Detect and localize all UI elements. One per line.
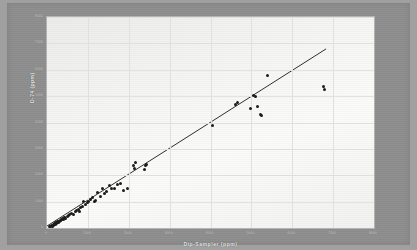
gridline-vertical [88,17,89,228]
x-tick-label: 3000 [165,231,173,235]
y-axis-title: D-74 (ppm) [29,72,35,103]
data-point [113,187,116,190]
y-tick-label: 2000 [18,172,43,176]
gridline-vertical [292,17,293,228]
y-tick-label: 3000 [18,146,43,150]
data-point [101,187,104,190]
y-tick-label: 8000 [18,14,43,18]
x-tick-label: 7000 [328,231,336,235]
gridline-vertical [374,17,375,228]
data-point [260,114,263,117]
x-tick-label: 4000 [205,231,213,235]
scan-page: 010002000300040005000600070008000 010002… [0,0,417,250]
y-tick-label: 1000 [18,199,43,203]
data-point [82,200,85,203]
data-point [254,95,257,98]
x-axis-title: Dip-Sampler (ppm) [46,241,375,247]
x-tick-label: 2000 [124,231,132,235]
x-tick-label: 5000 [246,231,254,235]
x-tick-label: 8000 [369,231,377,235]
figure-panel: 010002000300040005000600070008000 010002… [7,3,410,245]
gridline-vertical [129,17,130,228]
y-tick-label: 6000 [18,67,43,71]
gridline-vertical [251,17,252,228]
y-tick-label: 0 [18,225,43,229]
data-point [256,105,259,108]
data-point [94,199,97,202]
data-point [78,210,81,213]
x-tick-label: 0 [45,231,47,235]
x-tick-label: 1000 [83,231,91,235]
data-point [72,213,75,216]
data-point [99,195,102,198]
gridline-vertical [170,17,171,228]
gridline-vertical [211,17,212,228]
data-point [105,190,108,193]
data-point [132,164,135,167]
gridline-vertical [333,17,334,228]
y-tick-label: 7000 [18,40,43,44]
data-point [236,101,239,104]
y-tick-label: 4000 [18,120,43,124]
plot-area [46,16,375,229]
x-tick-label: 6000 [287,231,295,235]
